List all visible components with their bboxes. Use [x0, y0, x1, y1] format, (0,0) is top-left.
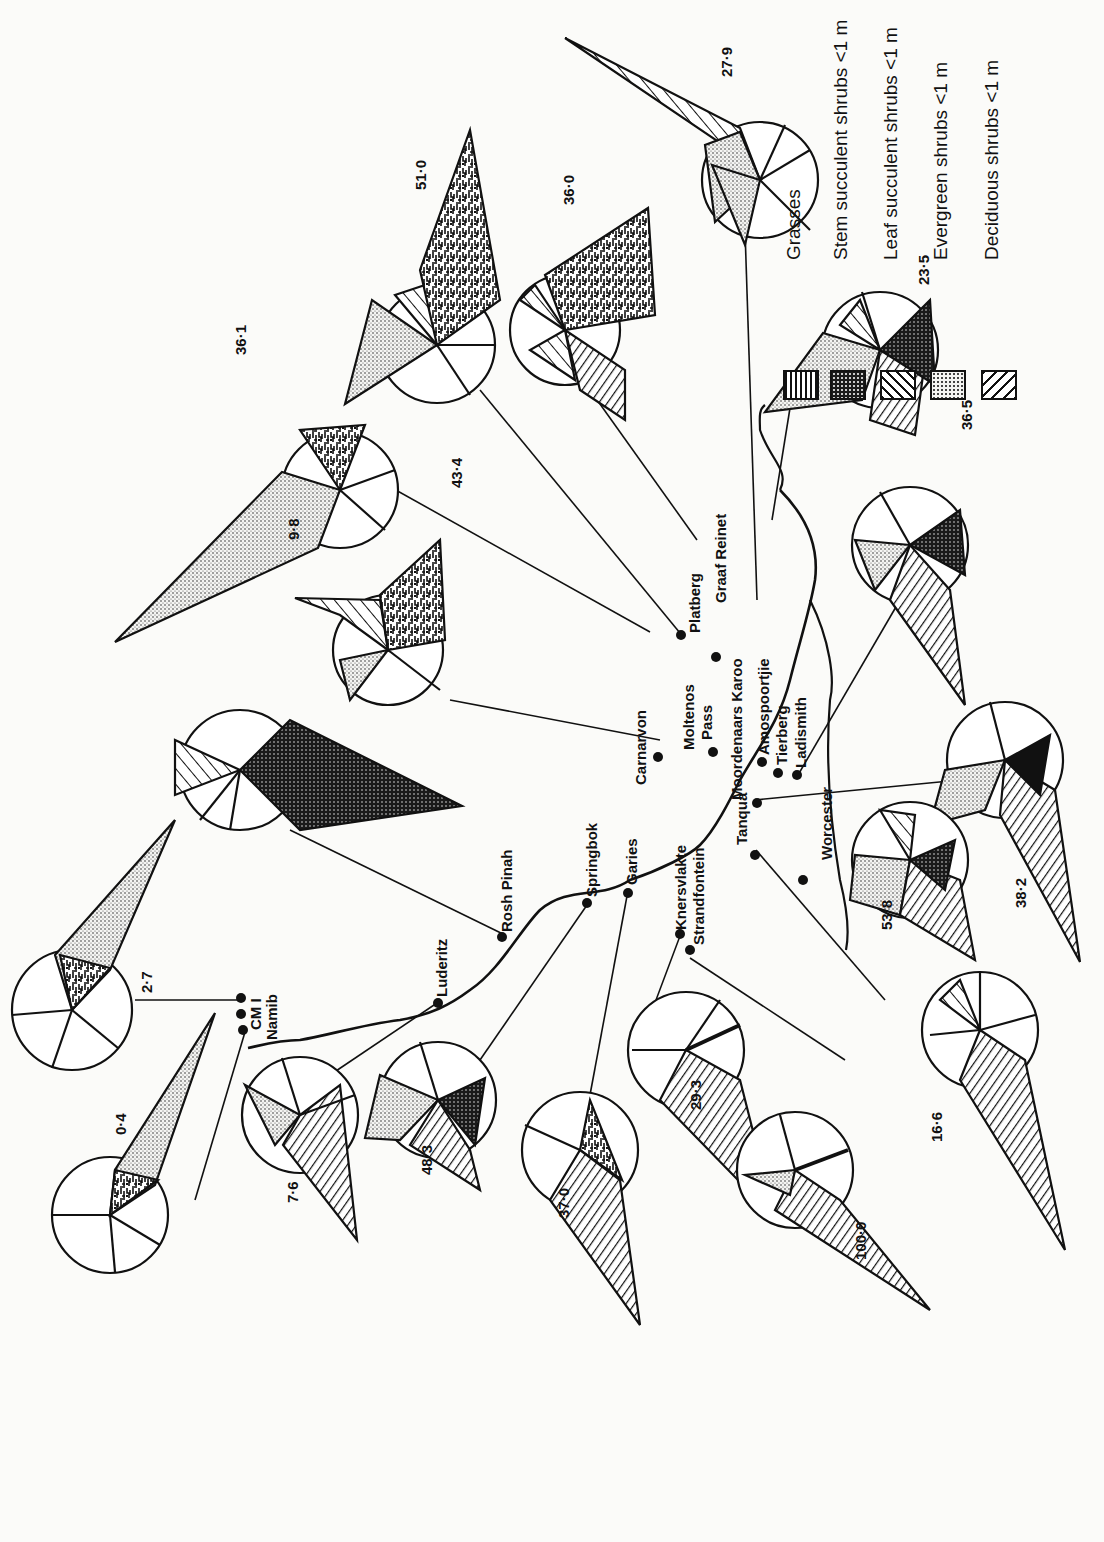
legend-swatch-grasses	[783, 370, 819, 400]
value-label: 53·8	[878, 900, 895, 930]
legend-swatch-stem-succulent	[830, 370, 866, 400]
site-label-luderitz: Luderitz	[433, 939, 450, 997]
site-dots	[236, 630, 808, 1035]
star-pie-2-7	[12, 820, 175, 1070]
site-label-knersvlakte: Knersvlakte	[672, 845, 689, 930]
site-label-worcester: Worcester	[818, 787, 835, 860]
value-label: 2·7	[138, 971, 155, 993]
site-label-moltenos: Moltenos	[680, 684, 697, 750]
star-pie-9-8	[175, 710, 462, 830]
site-label-ladismith: Ladismith	[792, 697, 809, 768]
legend-label-evergreen: Evergreen shrubs <1 m	[930, 62, 952, 260]
legend-label-leaf-succulent: Leaf succulent shrubs <1 m	[880, 27, 902, 260]
legend-swatch-deciduous	[981, 370, 1017, 400]
value-label: 51·0	[412, 160, 429, 190]
site-label-rosh-pinah: Rosh Pinah	[498, 849, 515, 932]
site-label-pass: Pass	[698, 705, 715, 740]
star-pie-37-0	[522, 1092, 640, 1325]
star-pie-100-0	[737, 1112, 930, 1310]
site-label-graaf-reinet: Graaf Reinet	[712, 514, 729, 603]
star-pie-23-5	[765, 292, 938, 435]
site-label-springbok: Springbok	[583, 823, 600, 897]
star-pie-36-5	[852, 487, 968, 705]
star-pie-7-6	[242, 1057, 358, 1240]
site-label-namib: Namib	[263, 994, 280, 1040]
value-label: 36·0	[560, 175, 577, 205]
legend-swatch-leaf-succulent	[880, 370, 916, 400]
legend-label-deciduous: Deciduous shrubs <1 m	[981, 60, 1003, 260]
legend-label-grasses: Grasses	[783, 189, 805, 260]
value-label: 100·0	[852, 1222, 869, 1260]
inland-boundary	[760, 405, 848, 950]
site-label-cm-i: CM I	[247, 998, 264, 1030]
star-pie-27-9	[565, 38, 818, 245]
value-label: 29·3	[687, 1080, 704, 1110]
value-label: 16·6	[928, 1112, 945, 1142]
value-label: 9·8	[285, 518, 302, 540]
star-pie-36-0	[510, 208, 655, 420]
value-label: 43·4	[448, 458, 465, 488]
site-label-moordenaars-karoo: Moordenaars Karoo	[728, 658, 745, 800]
site-label-garies: Garies	[623, 838, 640, 885]
value-label: 48·3	[418, 1145, 435, 1175]
value-label: 36·5	[958, 400, 975, 430]
value-label: 0·4	[112, 1113, 129, 1135]
site-label-tierberg: Tierberg	[773, 705, 790, 765]
value-label: 27·9	[718, 47, 735, 77]
value-label: 23·5	[915, 255, 932, 285]
legend-swatch-evergreen	[930, 370, 966, 400]
site-label-strandfontein: Strandfontein	[690, 848, 707, 946]
site-label-carnarvon: Carnarvon	[632, 710, 649, 785]
star-pie-43-4	[295, 540, 445, 705]
value-label: 36·1	[232, 325, 249, 355]
figure: Deciduous shrubs <1 m Evergreen shrubs <…	[0, 0, 1104, 1542]
site-label-tanqua: Tanqua	[733, 793, 750, 845]
value-label: 37·0	[555, 1188, 572, 1218]
value-label: 7·6	[284, 1181, 301, 1203]
value-label: 38·2	[1012, 878, 1029, 908]
site-label-amospoortjie: Amospoortjie	[755, 658, 772, 755]
legend-label-stem-succulent: Stem succulent shrubs <1 m	[830, 20, 852, 260]
star-pie-53-8	[850, 802, 975, 960]
site-label-platberg: Platberg	[686, 573, 703, 633]
